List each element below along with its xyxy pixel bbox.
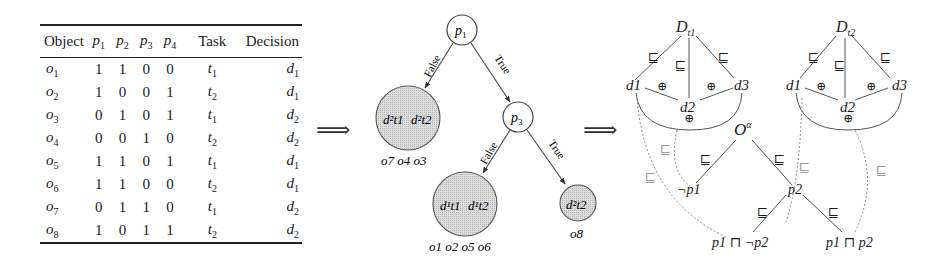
subsumes-icon: ⊑ [675,58,686,73]
implies-arrow-1: ⟹ [316,117,350,143]
leaf-left-objects: o7 o4 o3 [381,153,427,168]
implies-arrow-2: ⟹ [583,117,617,143]
leaf-mid-content-b: d¹t2 [468,198,489,213]
subsumes-icon: ⊑ [700,152,711,167]
exclusive-icon: ⊕ [706,79,716,93]
edge-label-true-1: True [492,52,513,76]
exclusive-icon: ⊕ [684,111,694,125]
leaf-right-objects: o8 [570,226,584,241]
ontology-node-p1-and-not-p2: p1 ⊓ ¬p2 [711,235,768,250]
exclusive-icon: ⊕ [816,79,826,93]
leaf-mid-content-a: d¹t1 [440,198,461,213]
decision-space-t2-label: Dt2 [835,18,855,38]
subsumes-icon-dotted: ⊑ [660,142,671,157]
subsumes-icon: ⊑ [774,152,785,167]
edge-label-true-2: True [546,137,567,161]
ontology-labels: Dt1 Dt2 d1 d2 d3 d1 d2 d3 ⊕ ⊕ ⊕ ⊕ ⊕ ⊕ ⊑ … [626,18,907,250]
exclusive-icon: ⊕ [657,79,667,93]
leaf-left-content-a: d²t1 [383,112,404,127]
subsumes-icon-dotted: ⊑ [799,160,810,175]
diagram-canvas: ⟹ ⟹ p1 False True d²t1 d²t2 o7 o4 o3 p3 … [0,0,949,261]
subsumes-icon: ⊑ [718,50,729,65]
subsumes-icon-dotted: ⊑ [645,170,656,185]
t1-node-d1: d1 [626,77,641,93]
decision-tree: p1 False True d²t1 d²t2 o7 o4 o3 p3 Fals… [376,15,596,254]
exclusive-icon: ⊕ [843,111,853,125]
exclusive-icon: ⊕ [866,79,876,93]
leaf-mid-objects: o1 o2 o5 o6 [429,239,491,254]
subsumes-icon: ⊑ [648,50,659,65]
t2-node-d1: d1 [786,77,801,93]
ontology-node-p2: p2 [787,182,802,197]
edge-label-false-1: False [421,53,443,79]
ontology-node-p1-and-p2: p1 ⊓ p2 [825,235,873,250]
subsumes-icon: ⊑ [880,50,891,65]
subsumes-icon: ⊑ [808,50,819,65]
t1-node-d3: d3 [734,77,749,93]
leaf-left-content-b: d²t2 [411,112,432,127]
subsumes-icon-dotted: ⊑ [876,163,887,178]
t2-node-d3: d3 [892,77,907,93]
leaf-right-content: d²t2 [566,197,587,212]
subsumes-icon: ⊑ [828,205,839,220]
ontology-node-neg-p1: ¬p1 [677,182,700,197]
subsumes-icon: ⊑ [834,58,845,73]
ontology-root-label: Oα [734,119,752,139]
decision-space-t1-label: Dt1 [675,18,695,38]
subsumes-icon: ⊑ [757,205,768,220]
